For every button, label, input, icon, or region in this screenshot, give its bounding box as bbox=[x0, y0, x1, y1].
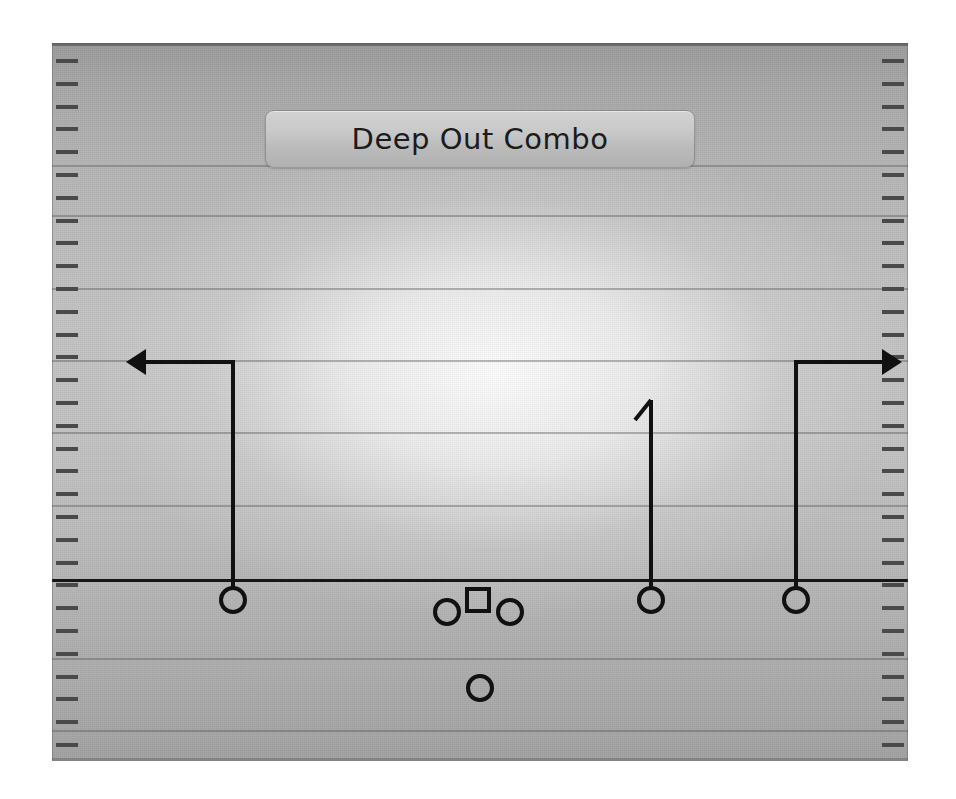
hash-mark bbox=[882, 492, 904, 496]
hash-mark bbox=[56, 173, 78, 177]
hash-mark bbox=[882, 424, 904, 428]
hash-mark bbox=[882, 697, 904, 701]
hash-mark bbox=[56, 241, 78, 245]
hash-mark bbox=[56, 401, 78, 405]
hash-mark bbox=[882, 264, 904, 268]
hash-mark bbox=[882, 720, 904, 724]
hash-mark bbox=[56, 378, 78, 382]
hash-mark bbox=[882, 629, 904, 633]
hash-mark bbox=[56, 697, 78, 701]
hash-mark bbox=[882, 652, 904, 656]
yard-line-4 bbox=[52, 360, 908, 362]
hash-mark bbox=[56, 515, 78, 519]
hash-mark bbox=[882, 469, 904, 473]
hash-mark bbox=[56, 333, 78, 337]
hash-mark bbox=[56, 492, 78, 496]
play-title-text: Deep Out Combo bbox=[352, 122, 609, 156]
hash-mark bbox=[882, 447, 904, 451]
hash-mark bbox=[882, 561, 904, 565]
yard-line-2 bbox=[52, 215, 908, 217]
hash-mark bbox=[56, 538, 78, 542]
hash-mark bbox=[56, 196, 78, 200]
hash-mark bbox=[882, 310, 904, 314]
hash-mark bbox=[56, 59, 78, 63]
hash-mark bbox=[882, 105, 904, 109]
hash-mark bbox=[56, 606, 78, 610]
yard-line-7 bbox=[52, 658, 908, 660]
hash-mark bbox=[882, 675, 904, 679]
hash-mark bbox=[882, 82, 904, 86]
hash-mark bbox=[882, 355, 904, 359]
hash-mark bbox=[56, 310, 78, 314]
hash-mark bbox=[56, 219, 78, 223]
hash-mark bbox=[882, 127, 904, 131]
hash-mark bbox=[882, 606, 904, 610]
hash-mark bbox=[56, 469, 78, 473]
line-of-scrimmage bbox=[52, 579, 908, 582]
hash-mark bbox=[56, 150, 78, 154]
hash-mark bbox=[56, 424, 78, 428]
hash-mark bbox=[882, 743, 904, 747]
field-bottom-edge-line bbox=[52, 758, 908, 760]
yard-line-3 bbox=[52, 288, 908, 290]
hash-mark bbox=[882, 515, 904, 519]
hash-mark bbox=[56, 105, 78, 109]
hash-mark bbox=[56, 675, 78, 679]
hash-mark bbox=[56, 355, 78, 359]
yard-line-8 bbox=[52, 730, 908, 732]
hash-mark bbox=[56, 652, 78, 656]
hash-mark bbox=[882, 401, 904, 405]
hash-mark bbox=[56, 447, 78, 451]
hash-mark bbox=[882, 59, 904, 63]
hash-mark bbox=[882, 583, 904, 587]
play-diagram-canvas: Deep Out Combo bbox=[0, 0, 956, 799]
hash-mark bbox=[882, 241, 904, 245]
hash-mark bbox=[56, 264, 78, 268]
hash-mark bbox=[56, 82, 78, 86]
hash-mark bbox=[56, 629, 78, 633]
hash-mark bbox=[56, 127, 78, 131]
hash-mark bbox=[56, 287, 78, 291]
hash-mark bbox=[882, 378, 904, 382]
hash-mark bbox=[56, 583, 78, 587]
hash-mark bbox=[882, 538, 904, 542]
hash-mark bbox=[882, 196, 904, 200]
play-title-plate[interactable]: Deep Out Combo bbox=[265, 110, 695, 168]
hash-mark bbox=[882, 333, 904, 337]
hash-mark bbox=[56, 561, 78, 565]
yard-line-6 bbox=[52, 505, 908, 507]
hash-mark bbox=[882, 173, 904, 177]
field-top-edge-line bbox=[52, 43, 908, 46]
hash-mark bbox=[882, 219, 904, 223]
hash-mark bbox=[56, 720, 78, 724]
hash-mark bbox=[56, 743, 78, 747]
hash-mark bbox=[882, 150, 904, 154]
yard-line-5 bbox=[52, 432, 908, 434]
hash-mark bbox=[882, 287, 904, 291]
